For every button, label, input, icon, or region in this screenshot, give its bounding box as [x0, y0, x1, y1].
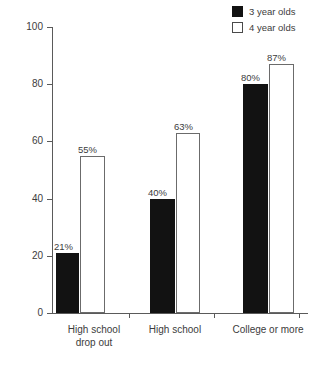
category-label-line-1: High school: [68, 324, 120, 335]
y-axis-tick: 60: [47, 141, 52, 142]
bar-value-label: 80%: [241, 72, 260, 84]
y-axis-tick: 80: [47, 84, 52, 85]
y-axis-tick-label: 60: [32, 134, 43, 147]
y-axis-tick-label: 100: [26, 20, 43, 33]
x-axis-tick: [214, 313, 215, 318]
bar-4-year-olds-high-school-drop-out: 55%: [80, 156, 105, 313]
bar-4-year-olds-high-school: 63%: [176, 133, 200, 313]
plot-area: 100 80 60 40 20 0 21% 55% 40%: [52, 27, 310, 313]
category-label-line-1: College or more: [232, 324, 303, 335]
x-axis-category-label-college: College or more: [213, 323, 323, 336]
y-axis-tick: 100: [47, 27, 52, 28]
y-axis-line: [52, 27, 53, 313]
bar-4-year-olds-college-or-more: 87%: [269, 64, 294, 313]
bar-3-year-olds-college-or-more: 80%: [243, 84, 268, 313]
bar-value-label: 55%: [78, 144, 97, 156]
bar-chart: 3 year olds 4 year olds 100 80 60 40 20 …: [0, 0, 329, 367]
y-axis-tick-label: 0: [37, 306, 43, 319]
x-axis-tick: [129, 313, 130, 318]
legend-item-3-year-olds: 3 year olds: [232, 4, 328, 18]
category-label-line-2: drop out: [39, 336, 149, 349]
y-axis-tick: 0: [47, 313, 52, 314]
y-axis-tick-label: 20: [32, 249, 43, 262]
filled-square-icon: [232, 6, 243, 17]
bar-3-year-olds-high-school: 40%: [150, 199, 175, 313]
x-axis-tick: [299, 313, 300, 318]
bar-value-label: 21%: [54, 241, 73, 253]
bar-value-label: 87%: [267, 52, 286, 64]
y-axis-tick-label: 80: [32, 77, 43, 90]
y-axis-tick-label: 40: [32, 192, 43, 205]
y-axis-tick: 20: [47, 256, 52, 257]
y-axis-tick: 40: [47, 199, 52, 200]
bar-3-year-olds-high-school-drop-out: 21%: [56, 253, 79, 313]
legend-item-label: 3 year olds: [249, 6, 295, 17]
bar-value-label: 63%: [174, 121, 193, 133]
bar-value-label: 40%: [148, 187, 167, 199]
x-axis-line: [52, 313, 308, 314]
category-label-line-1: High school: [149, 324, 201, 335]
